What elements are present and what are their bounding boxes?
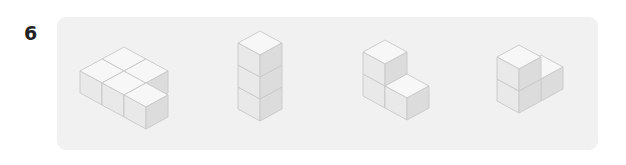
figure-3-cubes [363,40,429,120]
cube-figures [0,0,626,165]
figure-2-cubes [238,31,282,121]
figure-4-cubes [497,45,563,113]
figure-1-cubes [80,47,168,129]
